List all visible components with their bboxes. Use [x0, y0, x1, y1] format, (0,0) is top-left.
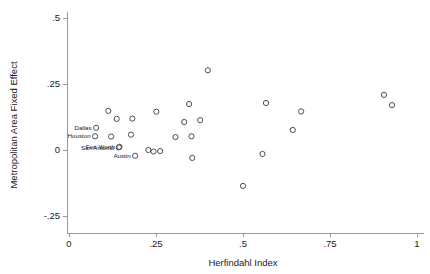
data-point [151, 149, 156, 154]
data-point [263, 100, 268, 105]
data-point [389, 103, 394, 108]
y-tick-label: .25 [47, 78, 60, 89]
point-labels-layer: DallasHoustonSan AntonioFort WorthAustin [68, 124, 132, 159]
x-tick-label: .25 [149, 238, 162, 249]
data-point [109, 134, 114, 139]
x-tick-label: 1 [414, 238, 419, 249]
data-point [173, 134, 178, 139]
data-point [130, 116, 135, 121]
data-point [189, 134, 194, 139]
data-point [290, 127, 295, 132]
data-point-label: Fort Worth [86, 143, 116, 150]
y-tick-label: .5 [52, 12, 60, 23]
data-point [260, 151, 265, 156]
data-point [299, 109, 304, 114]
y-axis: -.250.25.5 [44, 12, 67, 233]
data-point [190, 155, 195, 160]
data-point [133, 153, 138, 158]
chart-canvas: -.250.25.5 0.25.5.751 DallasHoustonSan A… [0, 0, 430, 274]
y-axis-title: Metropolitan Area Fixed Effect [8, 61, 19, 188]
x-tick-label: 0 [66, 238, 71, 249]
x-axis-title: Herfindahl Index [208, 257, 277, 268]
scatter-plot-figure: -.250.25.5 0.25.5.751 DallasHoustonSan A… [0, 0, 430, 274]
data-point [94, 125, 99, 130]
y-tick-label: 0 [55, 144, 60, 155]
data-point [205, 68, 210, 73]
data-point [182, 119, 187, 124]
data-point [154, 109, 159, 114]
x-tick-label: .75 [323, 238, 336, 249]
data-point-label: Dallas [74, 124, 91, 131]
data-point-label: Houston [68, 132, 92, 139]
data-point [240, 183, 245, 188]
data-point [381, 92, 386, 97]
x-tick-label: .5 [239, 238, 247, 249]
data-point [93, 134, 98, 139]
x-axis: 0.25.5.751 [66, 233, 424, 249]
data-point [114, 116, 119, 121]
data-point [158, 148, 163, 153]
data-point [186, 101, 191, 106]
data-points-layer [93, 68, 395, 189]
y-tick-label: -.25 [44, 210, 60, 221]
data-point-label: Austin [113, 152, 131, 159]
data-point [198, 118, 203, 123]
data-point [146, 147, 151, 152]
data-point [106, 108, 111, 113]
data-point [128, 132, 133, 137]
